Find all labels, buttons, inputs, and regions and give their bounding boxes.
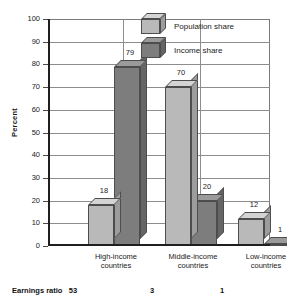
earnings-ratio-value: 3 [137, 286, 167, 295]
x-axis-line [48, 244, 270, 246]
bar-value-label: 70 [168, 69, 194, 77]
chart-figure: Percent 1009080706050403020100 187970201… [0, 0, 287, 306]
y-tick-label: 20 [18, 197, 40, 205]
bar [88, 205, 114, 246]
y-tick-label: 100 [18, 15, 40, 23]
bar-value-label: 79 [117, 49, 143, 57]
legend-label: Population share [174, 22, 234, 31]
category-label-line: countries [153, 261, 233, 270]
bar-value-label: 20 [194, 183, 220, 191]
bar-value-label: 1 [267, 226, 287, 234]
category-label-line: countries [226, 261, 287, 270]
category-label: Middle-incomecountries [153, 252, 233, 271]
bar-front-face [88, 205, 114, 246]
bar-side-face [140, 53, 147, 239]
gridline [48, 155, 270, 156]
y-tick-label: 40 [18, 151, 40, 159]
y-tick-label: 70 [18, 83, 40, 91]
legend-swatch-cube-icon [141, 19, 160, 34]
gridline [48, 110, 270, 111]
category-label: High-incomecountries [76, 252, 156, 271]
y-tick-label: 30 [18, 174, 40, 182]
legend-label: Income share [174, 46, 222, 55]
gridline [48, 64, 270, 65]
earnings-ratio-label: Earnings ratio [12, 286, 62, 295]
gridline [48, 178, 270, 179]
y-tick-label: 50 [18, 129, 40, 137]
y-tick-label: 0 [18, 242, 40, 250]
earnings-ratio-value: 1 [207, 286, 237, 295]
bar [165, 87, 191, 246]
gridline [48, 223, 270, 224]
bar-side-face [191, 73, 198, 239]
gridline [48, 133, 270, 134]
y-tick-mark [43, 246, 48, 247]
bar [238, 219, 264, 246]
bar-front-face [165, 87, 191, 246]
y-tick-label: 60 [18, 106, 40, 114]
gridline [48, 201, 270, 202]
y-axis-line [48, 19, 50, 246]
y-tick-label: 10 [18, 219, 40, 227]
category-label: Low-incomecountries [226, 252, 287, 271]
category-label-line: countries [76, 261, 156, 270]
legend-item: Population share [141, 14, 251, 36]
y-tick-label: 80 [18, 60, 40, 68]
category-label-line: Low-income [226, 252, 287, 261]
legend-item: Income share [141, 38, 251, 60]
y-axis-ticks: 1009080706050403020100 [10, 0, 40, 306]
y-tick-label: 90 [18, 38, 40, 46]
legend-cube-front-face [141, 19, 160, 34]
legend-swatch-cube-icon [141, 43, 160, 58]
bar-front-face [238, 219, 264, 246]
gridline [48, 87, 270, 88]
category-label-line: Middle-income [153, 252, 233, 261]
bar-top-face [264, 237, 287, 244]
earnings-ratio-value: 53 [58, 286, 88, 295]
bar-value-label: 12 [241, 201, 267, 209]
legend-cube-front-face [141, 43, 160, 58]
bar-value-label: 18 [91, 187, 117, 195]
category-label-line: High-income [76, 252, 156, 261]
